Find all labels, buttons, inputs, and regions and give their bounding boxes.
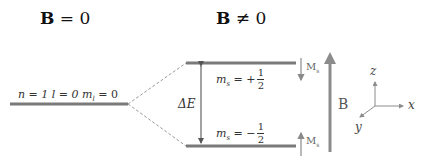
ms-label-lower: Ms [306,135,319,148]
delta-e-label: ΔE [178,97,195,111]
ms-sign: = − [230,127,255,140]
b-field-arrowhead-icon [324,52,336,64]
ms-sub: s [316,67,319,74]
y-axis-icon [360,106,375,117]
ms-sub: s [316,141,319,148]
ms-letter: M [306,61,316,72]
ms-symbol: m [216,73,226,86]
ms-letter: M [306,135,316,146]
ms-label-upper: Ms [306,61,319,74]
field-label: B [338,96,348,112]
upper-level-label: ms = +12 [216,68,264,91]
fraction-half: 12 [257,122,264,145]
ms-symbol: m [216,127,226,140]
numerator: 1 [258,122,264,132]
y-axis-label: y [355,120,362,134]
denominator: 2 [258,81,264,91]
unsplit-level-label: n = 1 l = 0 ml = 0 [18,88,118,103]
x-axis-label: x [408,98,415,112]
energy-level-diagram [0,0,426,164]
denominator: 2 [258,135,264,145]
numerator: 1 [258,68,264,78]
ml-value: = 0 [95,88,118,101]
lower-level-label: ms = −12 [216,122,264,145]
z-axis-label: z [370,64,376,78]
ms-sign: = + [230,73,255,86]
quantum-numbers: n = 1 l = 0 m [18,88,92,101]
fraction-half: 12 [257,68,264,91]
